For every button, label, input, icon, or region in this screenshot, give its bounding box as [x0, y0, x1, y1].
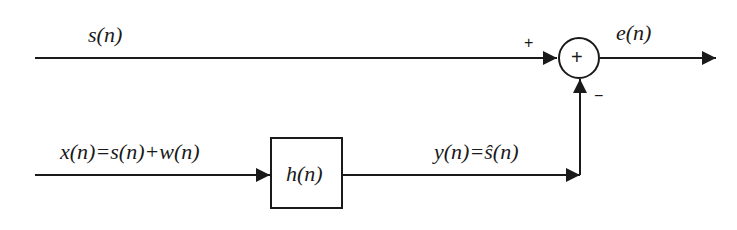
filter-label: h(n) [286, 163, 323, 185]
input-signal-label: x(n)=s(n)+w(n) [60, 141, 200, 163]
plus-sign-top-input: + [524, 35, 533, 51]
minus-sign-bottom-input: − [594, 88, 603, 104]
summer-plus-symbol: + [571, 47, 583, 67]
error-signal-label: e(n) [616, 22, 651, 44]
desired-signal-label: s(n) [88, 24, 122, 46]
filter-output-label: y(n)=ŝ(n) [434, 141, 518, 163]
